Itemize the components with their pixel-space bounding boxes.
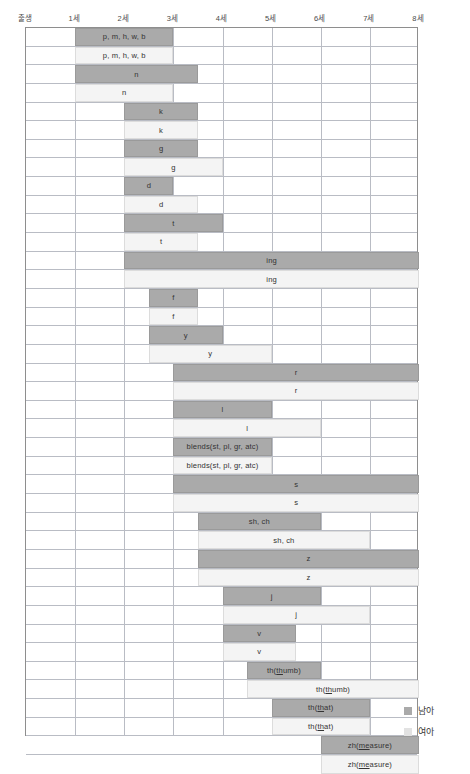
- chart-row: f: [26, 308, 417, 327]
- bar-female: ing: [124, 270, 419, 288]
- legend-item-male[interactable]: 남아: [404, 700, 464, 721]
- chart-row: d: [26, 177, 417, 196]
- bar-male: th(thumb): [247, 662, 321, 680]
- x-axis-tick-6: 6세: [314, 14, 325, 24]
- bar-female: n: [75, 84, 173, 102]
- bar-female: d: [124, 196, 198, 214]
- chart-row: k: [26, 103, 417, 122]
- bar-male: y: [149, 326, 223, 344]
- chart-row: zh(measure): [26, 755, 417, 774]
- chart-row: ing: [26, 270, 417, 289]
- bar-male: f: [149, 289, 198, 307]
- bar-male: t: [124, 214, 222, 232]
- chart-row: y: [26, 326, 417, 345]
- bar-male: blends(st, pl, gr, atc): [173, 438, 271, 456]
- chart-row: th(that): [26, 718, 417, 737]
- bar-male: th(that): [272, 699, 370, 717]
- bar-female: p, m, h, w, b: [75, 47, 173, 65]
- bar-male: sh, ch: [198, 513, 321, 531]
- chart-row: g: [26, 140, 417, 159]
- legend: 남아여아: [404, 700, 464, 742]
- chart-row: p, m, h, w, b: [26, 28, 417, 47]
- bar-female: s: [173, 494, 419, 512]
- chart-row: l: [26, 401, 417, 420]
- chart-row: j: [26, 606, 417, 625]
- bar-male: d: [124, 177, 173, 195]
- chart-row: s: [26, 475, 417, 494]
- x-axis-tick-labels: 출생1세2세3세4세5세6세7세8세: [25, 14, 418, 26]
- chart-row: g: [26, 158, 417, 177]
- legend-swatch-icon: [404, 707, 412, 715]
- chart-row: ing: [26, 252, 417, 271]
- chart-row: blends(st, pl, gr, atc): [26, 457, 417, 476]
- chart-row: r: [26, 382, 417, 401]
- x-axis-tick-1: 1세: [68, 14, 79, 24]
- bar-female: f: [149, 308, 198, 326]
- chart-row: th(that): [26, 699, 417, 718]
- chart-row: n: [26, 84, 417, 103]
- legend-label: 남아: [418, 704, 434, 717]
- chart-plot-area: p, m, h, w, bp, m, h, w, bnnkkggddttingi…: [25, 27, 418, 736]
- chart-row: z: [26, 569, 417, 588]
- x-axis-tick-0: 출생: [18, 14, 32, 24]
- chart-row: p, m, h, w, b: [26, 47, 417, 66]
- bar-female: z: [198, 569, 419, 587]
- x-axis-tick-8: 8세: [412, 14, 423, 24]
- chart-row: f: [26, 289, 417, 308]
- chart-row: k: [26, 121, 417, 140]
- bar-female: th(that): [272, 718, 370, 736]
- legend-label: 여아: [418, 725, 434, 738]
- chart-row: d: [26, 196, 417, 215]
- chart-row: th(thumb): [26, 662, 417, 681]
- chart-row: z: [26, 550, 417, 569]
- chart-row: sh, ch: [26, 513, 417, 532]
- bar-male: z: [198, 550, 419, 568]
- chart-row: sh, ch: [26, 531, 417, 550]
- chart-row: v: [26, 625, 417, 644]
- bar-female: t: [124, 233, 198, 251]
- bar-male: r: [173, 364, 419, 382]
- bar-male: l: [173, 401, 271, 419]
- chart-row: t: [26, 233, 417, 252]
- legend-swatch-icon: [404, 728, 412, 736]
- x-axis-tick-5: 5세: [265, 14, 276, 24]
- bar-rows-container: p, m, h, w, bp, m, h, w, bnnkkggddttingi…: [26, 28, 417, 735]
- chart-row: v: [26, 643, 417, 662]
- bar-male: k: [124, 103, 198, 121]
- bar-male: s: [173, 475, 419, 493]
- chart-row: n: [26, 65, 417, 84]
- x-axis-tick-4: 4세: [216, 14, 227, 24]
- chart-row: r: [26, 364, 417, 383]
- bar-male: ing: [124, 252, 419, 270]
- bar-female: y: [149, 345, 272, 363]
- chart-row: l: [26, 419, 417, 438]
- bar-male: v: [223, 625, 297, 643]
- chart-row: blends(st, pl, gr, atc): [26, 438, 417, 457]
- bar-female: th(thumb): [247, 680, 419, 698]
- bar-female: zh(measure): [321, 755, 419, 774]
- bar-female: blends(st, pl, gr, atc): [173, 457, 271, 475]
- bar-female: v: [223, 643, 297, 661]
- x-axis-tick-7: 7세: [363, 14, 374, 24]
- bar-female: sh, ch: [198, 531, 370, 549]
- bar-male: j: [223, 587, 321, 605]
- bar-male: p, m, h, w, b: [75, 28, 173, 46]
- chart-row: s: [26, 494, 417, 513]
- chart-row: y: [26, 345, 417, 364]
- legend-item-female[interactable]: 여아: [404, 721, 464, 742]
- x-axis-tick-2: 2세: [118, 14, 129, 24]
- bar-female: r: [173, 382, 419, 400]
- bar-female: k: [124, 121, 198, 139]
- chart-row: j: [26, 587, 417, 606]
- x-axis-tick-3: 3세: [167, 14, 178, 24]
- bar-female: j: [223, 606, 370, 624]
- bar-female: g: [124, 158, 222, 176]
- chart-row: t: [26, 214, 417, 233]
- chart-row: zh(measure): [26, 736, 417, 755]
- chart-row: th(thumb): [26, 680, 417, 699]
- bar-male: g: [124, 140, 198, 158]
- bar-male: n: [75, 65, 198, 83]
- bar-female: l: [173, 419, 320, 437]
